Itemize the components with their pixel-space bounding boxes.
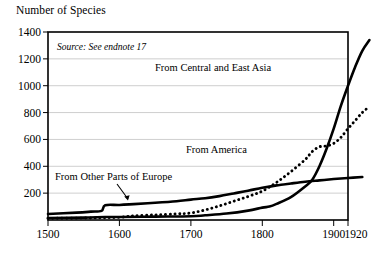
y-axis-tick-label: 1000 (18, 80, 41, 92)
x-axis-tick-label: 1700 (179, 228, 202, 240)
source-note: Source: See endnote 17 (57, 42, 147, 52)
chart-figure: Number of Species 1400 1200 1000 (0, 0, 373, 264)
x-axis-tick-label: 1500 (37, 228, 60, 240)
series-label-other-europe: From Other Parts of Europe (55, 171, 173, 182)
y-axis-tick-label: 1200 (18, 53, 41, 65)
x-axis-tick-label: 1800 (251, 228, 274, 240)
plot-background (48, 32, 348, 220)
x-axis-tick-label: 1920 (345, 228, 368, 240)
x-axis-tick-label: 1600 (108, 228, 131, 240)
series-label-america: From America (186, 144, 247, 155)
y-axis-tick-label: 1400 (18, 26, 41, 38)
y-axis-tick-label: 600 (24, 133, 42, 145)
y-axis-tick-label: 800 (24, 107, 42, 119)
x-axis-tick-label: 1900 (322, 228, 345, 240)
y-axis-tick-label: 200 (24, 187, 42, 199)
chart-plot-area: 1400 1200 1000 800 600 400 200 1500 1600… (0, 0, 373, 264)
series-label-central-east-asia: From Central and East Asia (155, 62, 271, 73)
x-axis-ticks (48, 220, 348, 226)
y-axis-tick-label: 400 (24, 160, 42, 172)
